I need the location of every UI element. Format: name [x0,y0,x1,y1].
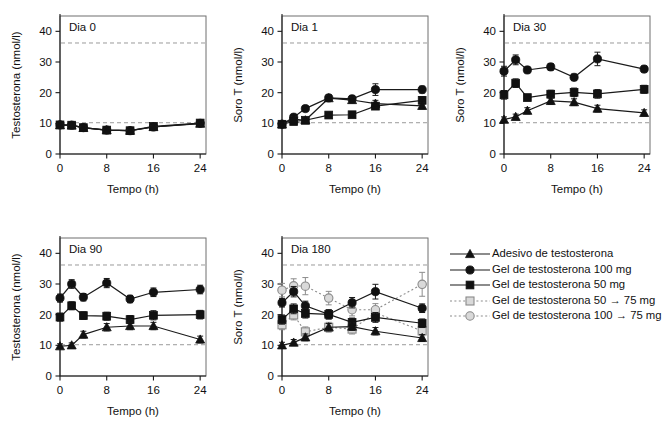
legend-key-glyph [448,277,492,293]
data-point [594,90,602,98]
data-point [301,105,309,113]
y-tick-label: 40 [261,25,274,37]
circle-filled-icon [448,262,492,278]
legend: Adesivo de testosteronaGel de testostero… [448,246,668,324]
legend-label: Gel de testosterona 100 mg [492,262,631,278]
x-tick-label: 8 [104,162,110,174]
legend-item-0: Adesivo de testosterona [448,246,668,262]
y-axis-title: Soro T (nmol/l) [454,47,466,123]
data-point [500,91,508,99]
x-tick-label: 0 [501,162,507,174]
data-point [149,288,157,296]
y-tick-label: 40 [483,25,496,37]
data-point [56,294,64,302]
data-point [79,293,87,301]
data-point [301,310,309,318]
x-axis-title: Tempo (h) [107,183,159,195]
y-axis-title: Soro T (nmol/l) [232,47,244,123]
y-tick-label: 30 [39,278,52,290]
panel-dia30: 010203040081624Tempo (h)Soro T (nmol/l)D… [444,2,660,216]
data-point [126,295,134,303]
panel-dia0: 010203040081624Tempo (h)Testosterona (nm… [0,2,216,216]
x-tick-label: 0 [279,162,285,174]
y-tick-label: 30 [261,278,274,290]
data-point [348,111,356,119]
legend-label: Adesivo de testosterona [492,246,613,262]
panel-dia180: 010203040081624Tempo (h)Soro T (nmol/l)D… [222,224,438,438]
data-point [79,312,87,320]
panel-title: Dia 30 [513,21,546,33]
data-point [278,316,286,324]
legend-item-3: Gel de testosterona 50 → 75 mg [448,293,668,309]
data-point [640,85,648,93]
data-point [103,279,111,287]
plot-dia90: 010203040081624Tempo (h)Testosterona (nm… [0,224,216,438]
x-tick-label: 8 [104,384,110,396]
y-tick-label: 30 [39,56,52,68]
y-tick-label: 10 [261,117,274,129]
data-point [196,311,204,319]
y-tick-label: 0 [46,148,52,160]
data-point [68,280,76,288]
plot-frame [60,238,206,376]
plot-frame [282,16,428,154]
y-tick-label: 10 [39,339,52,351]
data-point [278,299,286,307]
legend-label: Gel de testosterona 50 mg [492,277,625,293]
figure-root: 010203040081624Tempo (h)Testosterona (nm… [0,0,671,440]
data-point [640,65,648,73]
legend-item-4: Gel de testosterona 100 → 75 mg [448,308,668,324]
y-tick-label: 0 [268,370,274,382]
y-tick-label: 10 [39,117,52,129]
data-point [371,86,379,94]
x-tick-label: 0 [57,162,63,174]
y-tick-label: 30 [483,56,496,68]
y-axis-title: Soro T (nmol/l) [232,269,244,345]
legend-marker [466,297,474,305]
y-tick-label: 40 [39,247,52,259]
y-tick-label: 20 [483,87,496,99]
y-tick-label: 20 [261,309,274,321]
x-axis-title: Tempo (h) [329,183,381,195]
y-tick-label: 20 [39,87,52,99]
legend-key-glyph [448,308,492,324]
data-point [371,288,379,296]
legend-label: Gel de testosterona 100 → 75 mg [492,308,662,324]
data-point [512,56,520,64]
data-point [150,311,158,319]
x-tick-label: 16 [369,162,382,174]
data-point [325,111,333,119]
x-tick-label: 8 [326,162,332,174]
data-point [512,79,520,87]
y-tick-label: 20 [261,87,274,99]
panel-title: Dia 90 [69,243,102,255]
legend-item-1: Gel de testosterona 100 mg [448,262,668,278]
panel-title: Dia 1 [291,21,318,33]
square-open-icon [448,293,492,309]
x-tick-label: 24 [416,162,429,174]
panel-title: Dia 0 [69,21,96,33]
y-tick-label: 40 [261,247,274,259]
data-point [325,310,333,318]
y-tick-label: 20 [39,309,52,321]
data-point [547,63,555,71]
panel-title: Dia 180 [291,243,331,255]
triangle-filled-icon [448,246,492,262]
plot-dia180: 010203040081624Tempo (h)Soro T (nmol/l)D… [222,224,438,438]
data-point [372,314,380,322]
x-tick-label: 0 [279,384,285,396]
plot-frame [504,16,650,154]
x-tick-label: 16 [147,162,160,174]
x-tick-label: 24 [194,384,207,396]
data-point [325,294,333,302]
data-point [500,67,508,75]
data-point [523,66,531,74]
circle-open-icon [448,308,492,324]
data-point [196,285,204,293]
y-tick-label: 0 [46,370,52,382]
x-tick-label: 16 [369,384,382,396]
x-tick-label: 16 [591,162,604,174]
data-point [523,94,531,102]
x-tick-label: 0 [57,384,63,396]
y-tick-label: 10 [483,117,496,129]
